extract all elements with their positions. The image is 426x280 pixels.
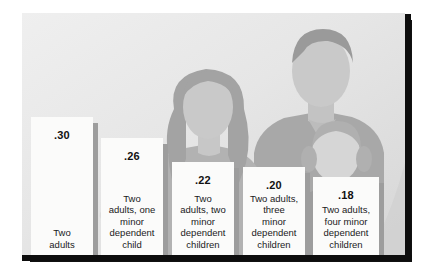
bar-3-shadow bbox=[305, 173, 310, 256]
bar-3-value: .20 bbox=[266, 180, 282, 191]
bar-4-label: Two adults, four minor dependent childre… bbox=[316, 204, 376, 250]
bar-1-label-line: adults, one bbox=[104, 204, 160, 216]
bar-3-label-line: children bbox=[246, 239, 302, 251]
bar-2[interactable]: .22 Two adults, two minor dependent chil… bbox=[172, 162, 234, 256]
bar-4-label-line: children bbox=[316, 239, 376, 251]
bar-3-label: Two adults, three minor dependent childr… bbox=[246, 193, 302, 251]
bar-3-label-line: dependent bbox=[246, 227, 302, 239]
bar-0-shadow bbox=[93, 123, 98, 256]
bar-2-label-line: adults, two bbox=[175, 204, 231, 216]
bar-2-label-line: Two bbox=[175, 193, 231, 205]
bar-3-label-line: Two adults, bbox=[246, 193, 302, 205]
bar-2-value: .22 bbox=[195, 175, 211, 186]
frame-bottom-rule bbox=[22, 255, 412, 261]
bar-0[interactable]: .30 Two adults bbox=[31, 117, 93, 256]
chart-panel: .30 Two adults .26 Two adults, one minor… bbox=[22, 13, 405, 256]
bar-0-value: .30 bbox=[54, 130, 70, 141]
bar-3[interactable]: .20 Two adults, three minor dependent ch… bbox=[243, 167, 305, 256]
bar-4-label-line: four minor bbox=[316, 216, 376, 228]
bar-4-value: .18 bbox=[338, 190, 354, 201]
frame-right-rule bbox=[405, 14, 411, 261]
bar-4[interactable]: .18 Two adults, four minor dependent chi… bbox=[313, 177, 379, 256]
bar-1[interactable]: .26 Two adults, one minor dependent chil… bbox=[101, 138, 163, 256]
bar-1-label-line: child bbox=[104, 239, 160, 251]
bar-0-label-line: adults bbox=[34, 239, 90, 251]
bar-3-label-line: minor bbox=[246, 216, 302, 228]
bar-1-label-line: dependent bbox=[104, 227, 160, 239]
bar-2-shadow bbox=[234, 168, 239, 256]
chart-image: .30 Two adults .26 Two adults, one minor… bbox=[0, 0, 426, 280]
bar-4-shadow bbox=[379, 183, 384, 256]
bar-2-label: Two adults, two minor dependent children bbox=[175, 193, 231, 251]
bar-3-label-line: three bbox=[246, 204, 302, 216]
bar-0-label: Two adults bbox=[34, 227, 90, 250]
bar-4-label-line: Two adults, bbox=[316, 204, 376, 216]
bar-1-shadow bbox=[163, 144, 168, 256]
bar-2-label-line: children bbox=[175, 239, 231, 251]
bar-2-label-line: dependent bbox=[175, 227, 231, 239]
bar-1-value: .26 bbox=[124, 151, 140, 162]
bar-1-label: Two adults, one minor dependent child bbox=[104, 193, 160, 251]
bar-4-label-line: dependent bbox=[316, 227, 376, 239]
bar-1-label-line: minor bbox=[104, 216, 160, 228]
bar-2-label-line: minor bbox=[175, 216, 231, 228]
bar-1-label-line: Two bbox=[104, 193, 160, 205]
bar-0-label-line: Two bbox=[34, 227, 90, 239]
